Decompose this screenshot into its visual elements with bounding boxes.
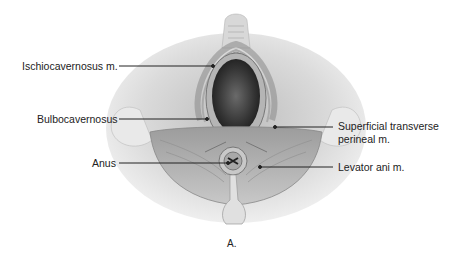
label-superficial-transverse-line1: Superficial transverse — [338, 120, 439, 132]
vaginal-opening — [212, 59, 260, 133]
label-ischiocavernosus: Ischiocavernosus m. — [22, 60, 118, 72]
perineum-anatomy-illustration — [0, 0, 462, 266]
figure-caption: A. — [227, 238, 236, 249]
label-bulbocavernosus: Bulbocavernosus — [37, 113, 118, 125]
anus — [219, 147, 247, 175]
label-levator-ani: Levator ani m. — [338, 161, 405, 173]
label-anus: Anus — [92, 157, 116, 169]
label-superficial-transverse-line2: perineal m. — [338, 133, 390, 145]
